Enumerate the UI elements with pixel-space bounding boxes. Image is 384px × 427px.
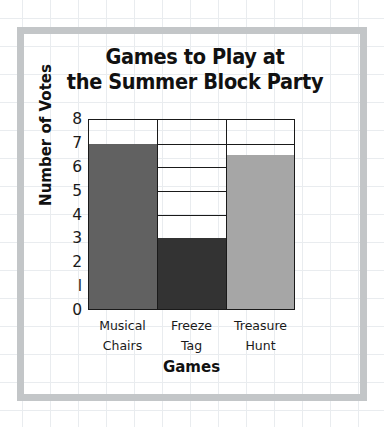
x-category-line: Tag [157, 336, 226, 356]
chart-title-line-2: the Summer Block Party [47, 69, 344, 94]
y-tick-7: 7 [56, 134, 82, 152]
bar-column-freeze-tag [157, 120, 225, 309]
y-tick-2: 2 [56, 253, 82, 271]
x-category-freeze-tag: Freeze Tag [157, 316, 226, 356]
x-category-treasure-hunt: Treasure Hunt [226, 316, 295, 356]
y-tick-0: 0 [56, 301, 82, 319]
bar-freeze-tag[interactable] [158, 238, 225, 309]
x-category-line: Musical [88, 316, 157, 336]
y-tick-4: 4 [56, 206, 82, 224]
x-category-line: Hunt [226, 336, 295, 356]
bar-empty-region-freeze-tag [158, 120, 225, 238]
x-category-line: Treasure [226, 316, 295, 336]
bar-empty-region-musical-chairs [89, 120, 157, 144]
bar-column-treasure-hunt [226, 120, 294, 309]
x-category-line: Chairs [88, 336, 157, 356]
gridline [227, 144, 294, 145]
y-tick-6: 6 [56, 158, 82, 176]
x-axis-title: Games [88, 358, 295, 376]
gridline [158, 167, 225, 168]
y-tick-8: 8 [56, 110, 82, 128]
bar-treasure-hunt[interactable] [227, 155, 294, 309]
bar-column-musical-chairs [89, 120, 157, 309]
gridline [158, 215, 225, 216]
chart-page: Games to Play at the Summer Block Party … [0, 0, 384, 427]
plot-area [88, 119, 295, 310]
y-tick-1: l [56, 277, 82, 295]
bar-musical-chairs[interactable] [89, 144, 157, 309]
x-category-line: Freeze [157, 316, 226, 336]
x-category-musical-chairs: Musical Chairs [88, 316, 157, 356]
chart-title-line-1: Games to Play at [47, 44, 344, 69]
y-tick-3: 3 [56, 229, 82, 247]
y-axis-ticks: 8 7 6 5 4 3 2 l 0 [52, 119, 82, 310]
chart-title: Games to Play at the Summer Block Party [47, 44, 344, 94]
y-tick-5: 5 [56, 182, 82, 200]
bar-empty-region-treasure-hunt [227, 120, 294, 155]
gridline [158, 191, 225, 192]
gridline [158, 144, 225, 145]
